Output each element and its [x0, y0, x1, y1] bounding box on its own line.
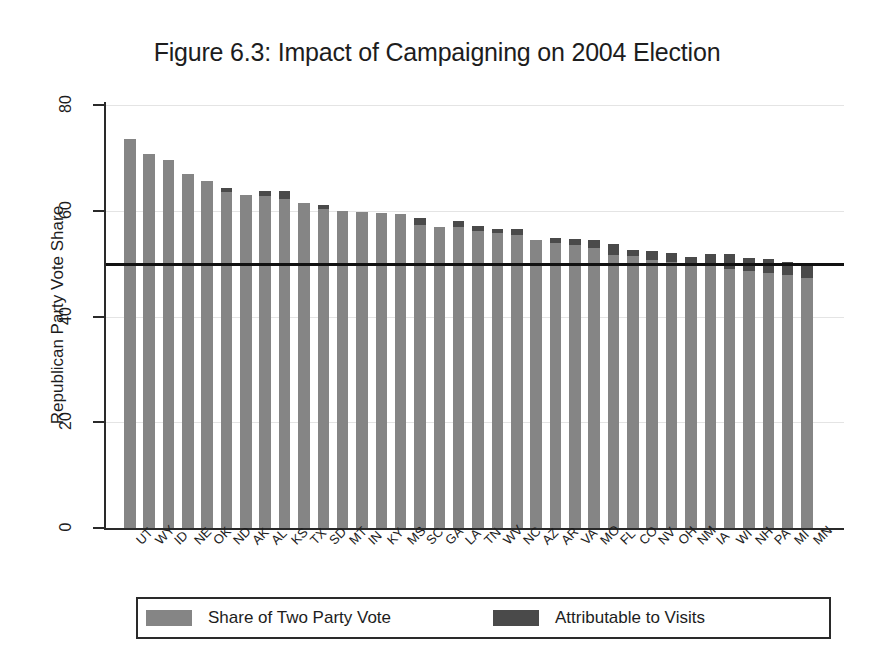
bar-segment-share-of-two-party-vote: [511, 235, 523, 528]
bar-nh: [743, 258, 755, 528]
bar-segment-share-of-two-party-vote: [530, 240, 542, 528]
bar-sd: [318, 205, 330, 528]
bar-segment-share-of-two-party-vote: [472, 231, 484, 528]
bar-segment-share-of-two-party-vote: [492, 233, 504, 528]
bar-in: [356, 212, 368, 528]
bar-segment-share-of-two-party-vote: [337, 211, 349, 528]
bar-segment-share-of-two-party-vote: [163, 160, 175, 528]
bar-segment-share-of-two-party-vote: [143, 154, 155, 528]
legend-entry-attributable-to-visits: Attributable to Visits: [493, 599, 705, 637]
bar-wy: [143, 154, 155, 528]
bar-segment-share-of-two-party-vote: [782, 275, 794, 528]
bar-segment-share-of-two-party-vote: [550, 243, 562, 528]
bar-ut: [124, 139, 136, 528]
bar-al: [259, 191, 271, 528]
bar-segment-share-of-two-party-vote: [240, 195, 252, 528]
legend-entry-share-of-two-party-vote: Share of Two Party Vote: [146, 599, 391, 637]
bar-va: [569, 239, 581, 528]
bar-nm: [685, 257, 697, 528]
bar-la: [453, 221, 465, 528]
bar-oh: [666, 253, 678, 528]
bar-ne: [182, 174, 194, 528]
bar-fl: [608, 244, 620, 528]
bar-tx: [298, 203, 310, 528]
bar-segment-share-of-two-party-vote: [743, 271, 755, 528]
bar-mt: [337, 211, 349, 528]
bar-segment-share-of-two-party-vote: [221, 192, 233, 528]
bar-mn: [801, 263, 813, 528]
bar-ks: [279, 191, 291, 528]
bar-segment-share-of-two-party-vote: [201, 181, 213, 528]
bar-ia: [705, 254, 717, 528]
bar-segment-share-of-two-party-vote: [763, 273, 775, 528]
bar-mi: [782, 262, 794, 528]
bar-segment-share-of-two-party-vote: [685, 265, 697, 528]
bar-ar: [550, 238, 562, 528]
bar-segment-share-of-two-party-vote: [724, 269, 736, 528]
bar-segment-share-of-two-party-vote: [434, 227, 446, 528]
bar-nd: [221, 188, 233, 528]
bar-segment-share-of-two-party-vote: [279, 199, 291, 528]
bar-wi: [724, 254, 736, 528]
bar-mo: [588, 240, 600, 528]
bar-ak: [240, 195, 252, 528]
bar-segment-attributable-to-visits: [608, 244, 620, 255]
bar-segment-share-of-two-party-vote: [182, 174, 194, 528]
bar-nc: [511, 229, 523, 528]
bar-segment-attributable-to-visits: [646, 251, 658, 259]
bar-segment-share-of-two-party-vote: [608, 255, 620, 528]
bar-segment-attributable-to-visits: [414, 218, 426, 225]
bar-segment-share-of-two-party-vote: [298, 203, 310, 528]
bar-segment-share-of-two-party-vote: [705, 266, 717, 528]
bar-segment-share-of-two-party-vote: [646, 260, 658, 528]
bar-segment-share-of-two-party-vote: [627, 256, 639, 528]
bar-nv: [646, 251, 658, 528]
bar-ok: [201, 181, 213, 528]
bar-co: [627, 250, 639, 528]
bar-segment-attributable-to-visits: [666, 253, 678, 262]
bar-segment-share-of-two-party-vote: [801, 278, 813, 528]
bar-wv: [492, 229, 504, 528]
bar-segment-share-of-two-party-vote: [395, 214, 407, 528]
bar-segment-attributable-to-visits: [763, 259, 775, 272]
bar-segment-share-of-two-party-vote: [666, 262, 678, 528]
bar-id: [163, 160, 175, 528]
bar-ky: [376, 213, 388, 528]
bar-segment-share-of-two-party-vote: [414, 225, 426, 528]
bar-segment-attributable-to-visits: [588, 240, 600, 248]
bar-pa: [763, 259, 775, 528]
chart-legend: Share of Two Party VoteAttributable to V…: [136, 597, 831, 639]
bar-tn: [472, 226, 484, 528]
bar-segment-share-of-two-party-vote: [569, 245, 581, 528]
bar-segment-share-of-two-party-vote: [376, 213, 388, 528]
bar-segment-share-of-two-party-vote: [259, 196, 271, 528]
bar-segment-share-of-two-party-vote: [588, 248, 600, 528]
bar-segment-share-of-two-party-vote: [318, 209, 330, 528]
bar-segment-share-of-two-party-vote: [124, 139, 136, 528]
legend-swatch: [146, 610, 192, 626]
bar-ga: [434, 227, 446, 528]
bar-ms: [395, 214, 407, 528]
bar-segment-attributable-to-visits: [279, 191, 291, 199]
bar-segment-share-of-two-party-vote: [356, 212, 368, 528]
figure-container: Figure 6.3: Impact of Campaigning on 200…: [0, 0, 874, 657]
bar-series-group: [0, 0, 874, 657]
legend-label: Attributable to Visits: [555, 608, 705, 628]
legend-swatch: [493, 610, 539, 626]
legend-label: Share of Two Party Vote: [208, 608, 391, 628]
bar-segment-attributable-to-visits: [724, 254, 736, 270]
bar-az: [530, 240, 542, 528]
bar-segment-share-of-two-party-vote: [453, 227, 465, 528]
fifty-percent-reference-line: [106, 263, 844, 266]
